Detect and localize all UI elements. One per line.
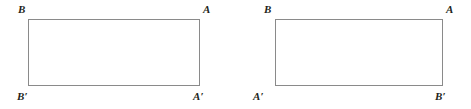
vertex-label-top-right: A xyxy=(446,4,454,15)
vertex-label-top-left: B xyxy=(264,4,272,15)
rectangle-outline xyxy=(28,19,200,86)
figure-rectangle-untwisted: B A B′ A′ xyxy=(0,0,235,109)
figure-pair: B A B′ A′ B A A′ B′ xyxy=(0,0,471,109)
vertex-label-bottom-right: B′ xyxy=(435,91,446,102)
vertex-label-bottom-right: A′ xyxy=(193,91,204,102)
vertex-label-top-left: B xyxy=(18,4,26,15)
vertex-label-top-right: A xyxy=(203,4,211,15)
vertex-label-bottom-left: B′ xyxy=(17,91,28,102)
vertex-label-bottom-left: A′ xyxy=(253,91,264,102)
figure-rectangle-twisted: B A A′ B′ xyxy=(235,0,471,109)
rectangle-outline xyxy=(275,19,443,86)
